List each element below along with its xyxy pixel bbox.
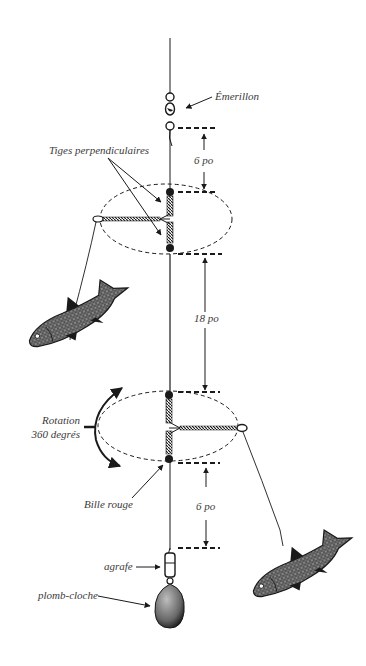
rotation-label-line1: Rotation — [20, 414, 80, 427]
middle-gap-label: 18 po — [194, 312, 219, 325]
upper-bait-fish-icon — [18, 273, 138, 355]
swivel-icon — [166, 93, 175, 146]
sinker-label: plomb-cloche — [38, 589, 98, 602]
sinker-pointer-arrow — [98, 596, 150, 606]
rotation-arrow-icon — [84, 388, 122, 466]
swivel-label: Émerillon — [215, 90, 259, 103]
diagram-canvas — [0, 0, 366, 666]
bead-label: Bille rouge — [84, 498, 133, 511]
bead-pointer-arrow — [132, 465, 163, 498]
bell-sinker-icon — [155, 584, 184, 628]
rods-label: Tiges perpendiculaires — [49, 144, 149, 157]
snap-icon — [165, 548, 175, 584]
rotation-label-line2: 360 degrés — [20, 428, 80, 441]
lower-leader-line — [243, 432, 283, 546]
bottom-gap-label: 6 po — [196, 500, 215, 513]
snap-label: agrafe — [104, 560, 133, 573]
swivel-pointer-arrow — [186, 97, 212, 108]
lower-bait-fish-icon — [242, 523, 362, 605]
top-gap-label: 6 po — [194, 154, 213, 167]
lower-spreader — [165, 391, 247, 463]
upper-spreader — [93, 188, 174, 252]
fishing-rig-diagram: Émerillon Tiges perpendiculaires 6 po 18… — [0, 0, 366, 666]
